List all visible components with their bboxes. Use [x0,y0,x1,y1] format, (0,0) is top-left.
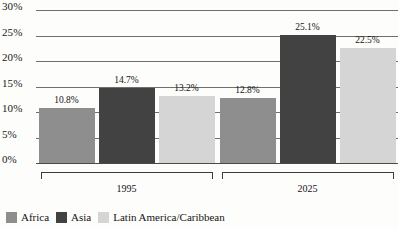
legend-swatch-icon [6,212,17,223]
legend-item: Asia [56,212,91,223]
legend: AfricaAsiaLatin America/Caribbean [6,212,225,223]
gridline-0 [36,163,398,164]
plot-area: 10.8%14.7%13.2%12.8%25.1%22.5% [36,10,398,163]
gridline-30 [36,10,398,11]
legend-swatch-icon [56,212,67,223]
y-axis-tick-label: 5% [2,129,17,140]
bar-value-label: 13.2% [153,84,221,94]
bar-value-label: 10.8% [33,96,101,106]
y-axis-tick-label: 20% [2,52,22,63]
legend-swatch-icon [98,212,109,223]
y-axis-tick-label: 0% [2,154,17,165]
y-axis-tick-label: 10% [2,103,22,114]
y-axis-tick-label: 30% [2,1,22,12]
legend-item: Latin America/Caribbean [98,212,224,223]
group-bracket [222,172,394,179]
legend-item: Africa [6,212,49,223]
legend-label: Latin America/Caribbean [113,212,224,223]
legend-label: Africa [21,212,49,223]
group-bracket-label: 2025 [222,184,394,194]
legend-label: Asia [71,212,91,223]
bar [99,88,155,163]
bar [340,48,396,163]
bar [39,108,95,163]
bar-value-label: 12.8% [214,86,282,96]
bar [159,96,215,163]
y-axis-tick-label: 25% [2,27,22,38]
bar-value-label: 25.1% [274,23,342,33]
group-bracket [41,172,213,179]
bar-value-label: 14.7% [93,76,161,86]
bar-value-label: 22.5% [334,36,398,46]
y-axis-tick-label: 15% [2,78,22,89]
bar-chart: 0%5%10%15%20%25%30% 10.8%14.7%13.2%12.8%… [0,0,398,229]
bar [280,35,336,163]
bar [220,98,276,163]
group-bracket-label: 1995 [41,184,213,194]
